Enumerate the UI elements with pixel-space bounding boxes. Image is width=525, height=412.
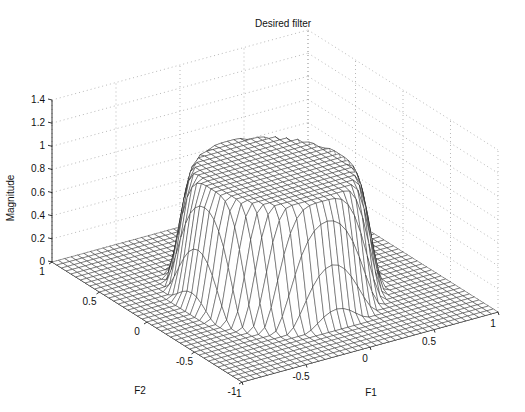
svg-text:0.5: 0.5 — [83, 296, 97, 307]
z-axis-label: Magnitude — [5, 174, 16, 221]
svg-text:1.4: 1.4 — [31, 94, 45, 105]
svg-text:-0.5: -0.5 — [176, 356, 194, 367]
svg-text:0: 0 — [362, 353, 368, 364]
svg-text:0.2: 0.2 — [31, 233, 45, 244]
svg-text:1: 1 — [39, 266, 45, 277]
svg-text:1: 1 — [490, 318, 496, 329]
x-axis-label: F1 — [365, 387, 377, 398]
chart-title: Desired filter — [255, 18, 312, 29]
svg-text:0.5: 0.5 — [422, 336, 436, 347]
y-axis-label: F2 — [134, 385, 146, 396]
svg-text:1.2: 1.2 — [31, 117, 45, 128]
surface-plot: Desired filter Magnitude F2 F1 00.20.40.… — [0, 0, 525, 412]
svg-text:0.8: 0.8 — [31, 163, 45, 174]
svg-text:0.4: 0.4 — [31, 210, 45, 221]
svg-text:-1: -1 — [233, 388, 242, 399]
svg-text:0: 0 — [134, 326, 140, 337]
svg-text:1: 1 — [39, 140, 45, 151]
svg-text:0.6: 0.6 — [31, 187, 45, 198]
svg-text:-0.5: -0.5 — [292, 371, 310, 382]
